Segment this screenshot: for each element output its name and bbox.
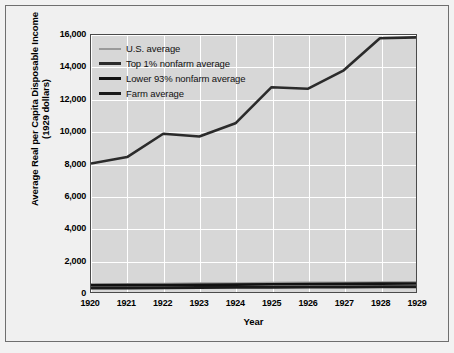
x-axis-tick-label: 1922: [143, 298, 183, 308]
x-axis-tick-label: 1926: [288, 298, 328, 308]
x-axis-tick-label: 1923: [179, 298, 219, 308]
y-axis-tick-label: 14,000: [40, 61, 86, 71]
series-line: [91, 287, 416, 288]
legend-item[interactable]: U.S. average: [99, 41, 246, 56]
chart-legend: U.S. averageTop 1% nonfarm averageLower …: [99, 41, 246, 101]
legend-line-swatch: [99, 92, 121, 95]
legend-item[interactable]: Top 1% nonfarm average: [99, 56, 246, 71]
plot-area: U.S. averageTop 1% nonfarm averageLower …: [90, 34, 417, 293]
legend-item-label: Lower 93% nonfarm average: [126, 73, 246, 84]
legend-line-swatch: [99, 77, 121, 80]
y-axis-tick-labels: 02,0004,0006,0008,00010,00012,00014,0001…: [38, 34, 86, 293]
y-axis-tick-label: 12,000: [40, 94, 86, 104]
legend-line-swatch: [99, 48, 121, 50]
y-axis-tick-label: 4,000: [40, 223, 86, 233]
x-axis-tick-label: 1920: [70, 298, 110, 308]
y-axis-tick-label: 0: [40, 288, 86, 298]
legend-item[interactable]: Farm average: [99, 86, 246, 101]
x-axis-tick-label: 1921: [106, 298, 146, 308]
chart-figure: Average Real per Capita Disposable Incom…: [0, 0, 454, 353]
y-axis-tick-label: 10,000: [40, 126, 86, 136]
x-axis-tick-labels: 1920192119221923192419251926192719281929: [90, 298, 417, 312]
y-axis-tick-label: 2,000: [40, 256, 86, 266]
x-axis-tick-label: 1929: [397, 298, 437, 308]
x-axis-tick-label: 1925: [252, 298, 292, 308]
y-axis-tick-label: 6,000: [40, 191, 86, 201]
x-axis-title: Year: [90, 316, 417, 327]
y-axis-tick-label: 8,000: [40, 159, 86, 169]
legend-item-label: U.S. average: [126, 43, 180, 54]
x-axis-tick-label: 1927: [324, 298, 364, 308]
x-axis-tick-label: 1928: [361, 298, 401, 308]
legend-item[interactable]: Lower 93% nonfarm average: [99, 71, 246, 86]
legend-item-label: Farm average: [126, 88, 184, 99]
legend-item-label: Top 1% nonfarm average: [126, 58, 230, 69]
legend-line-swatch: [99, 62, 121, 65]
y-axis-tick-label: 16,000: [40, 29, 86, 39]
x-axis-tick-label: 1924: [215, 298, 255, 308]
